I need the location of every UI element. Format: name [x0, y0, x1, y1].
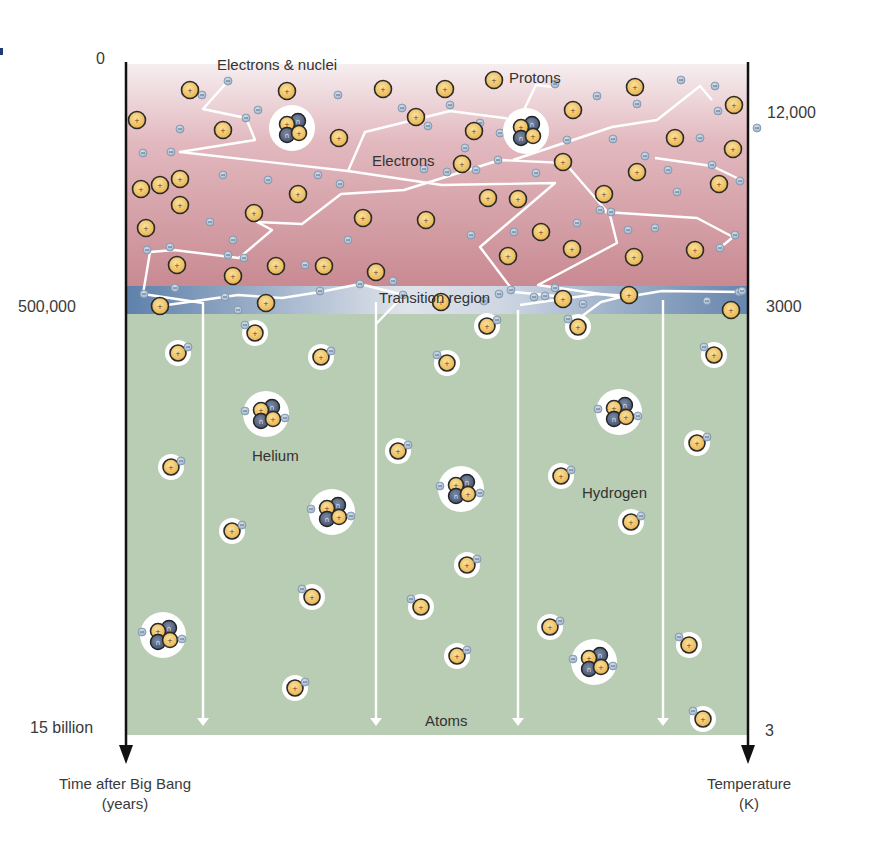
proton-icon: + — [247, 325, 263, 341]
helium-nucleus-icon: n+n+ — [582, 648, 609, 677]
proton-icon: + — [623, 514, 639, 530]
svg-text:+: + — [220, 127, 226, 135]
electron-icon — [219, 171, 227, 179]
label-atoms: Atoms — [425, 712, 468, 729]
electron-icon — [472, 166, 480, 174]
electron-icon — [494, 156, 502, 164]
electron-icon — [579, 300, 587, 308]
proton-icon: + — [138, 220, 155, 237]
proton-icon: + — [629, 164, 646, 181]
electron-icon — [461, 144, 469, 152]
electron-icon — [689, 707, 697, 715]
electron-icon — [651, 224, 659, 232]
electron-icon — [389, 277, 397, 285]
electron-icon — [229, 236, 237, 244]
svg-text:+: + — [138, 186, 144, 194]
proton-icon: + — [129, 112, 146, 129]
svg-text:+: + — [601, 191, 607, 199]
electron-icon — [573, 219, 581, 227]
electron-icon — [637, 512, 645, 520]
proton-icon: + — [570, 319, 586, 335]
electron-icon — [675, 633, 683, 641]
electron-icon — [473, 555, 481, 563]
arrow-down-icon — [119, 745, 133, 764]
proton-icon: + — [706, 347, 722, 363]
electron-icon — [334, 91, 342, 99]
proton-icon: + — [667, 130, 684, 147]
svg-text:+: + — [575, 324, 581, 332]
svg-text:n: n — [612, 416, 616, 424]
proton-icon: + — [565, 102, 582, 119]
electron-icon — [301, 261, 309, 269]
electron-icon — [166, 243, 174, 251]
svg-text:+: + — [711, 352, 717, 360]
proton-icon: + — [681, 637, 697, 653]
svg-text:+: + — [360, 215, 366, 223]
electron-icon — [476, 489, 484, 497]
proton-icon: + — [268, 258, 285, 275]
svg-text:+: + — [187, 87, 193, 95]
proton-icon: + — [687, 242, 704, 259]
svg-text:+: + — [418, 604, 424, 612]
svg-text:n: n — [598, 652, 602, 660]
svg-text:n: n — [587, 666, 591, 674]
svg-text:+: + — [484, 323, 490, 331]
helium-nucleus-icon: n+n+ — [269, 105, 315, 151]
svg-text:+: + — [538, 229, 544, 237]
electron-icon — [139, 149, 147, 157]
electron-icon — [569, 655, 577, 663]
electron-icon — [241, 321, 249, 329]
svg-text:n: n — [285, 132, 289, 140]
svg-text:+: + — [530, 133, 536, 141]
electron-icon — [240, 254, 248, 262]
svg-text:n: n — [296, 118, 300, 126]
electron-icon — [708, 161, 716, 169]
proton-icon: + — [510, 191, 527, 208]
electron-icon — [696, 134, 704, 142]
proton-icon: + — [418, 212, 435, 229]
electron-icon — [336, 180, 344, 188]
proton-icon: + — [332, 510, 347, 525]
electron-icon — [564, 315, 572, 323]
proton-icon: + — [246, 205, 263, 222]
electron-icon — [241, 407, 249, 415]
right-axis-title-line2: (K) — [684, 794, 814, 814]
proton-icon: + — [594, 660, 609, 675]
proton-icon: + — [225, 268, 242, 285]
svg-text:+: + — [631, 254, 637, 262]
left-axis-title: Time after Big Bang (years) — [20, 774, 230, 814]
label-electrons-nuclei: Electrons & nuclei — [217, 56, 337, 73]
proton-icon: + — [279, 83, 296, 100]
svg-text:+: + — [295, 191, 301, 199]
svg-text:+: + — [263, 300, 269, 308]
svg-text:+: + — [296, 130, 302, 138]
proton-icon: + — [459, 557, 475, 573]
svg-text:+: + — [284, 88, 290, 96]
electron-icon — [184, 343, 192, 351]
electron-icon — [143, 246, 151, 254]
electron-icon — [731, 231, 739, 239]
svg-text:+: + — [230, 273, 236, 281]
left-axis-title-line2: (years) — [20, 794, 230, 814]
svg-text:+: + — [442, 86, 448, 94]
electron-icon — [347, 512, 355, 520]
left-tick-500000: 500,000 — [18, 298, 76, 316]
svg-text:+: + — [157, 182, 163, 190]
svg-text:n: n — [454, 493, 458, 501]
proton-icon: + — [163, 633, 178, 648]
proton-icon: + — [723, 302, 740, 319]
electron-icon — [495, 290, 503, 298]
proton-icon: + — [355, 210, 372, 227]
svg-text:n: n — [530, 121, 534, 129]
electron-icon — [316, 287, 324, 295]
electron-icon — [633, 100, 641, 108]
svg-text:n: n — [336, 502, 340, 510]
svg-text:+: + — [380, 86, 386, 94]
proton-icon: + — [555, 154, 572, 171]
electron-icon — [563, 136, 571, 144]
proton-icon: + — [461, 487, 476, 502]
label-helium: Helium — [252, 447, 299, 464]
svg-text:+: + — [168, 464, 174, 472]
proton-icon: + — [454, 156, 471, 173]
electron-icon — [242, 114, 250, 122]
